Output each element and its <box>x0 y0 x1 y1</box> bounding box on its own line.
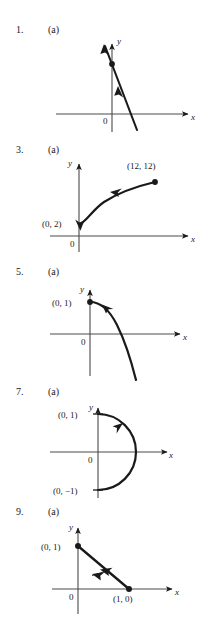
graph-9: x y 0 (0, 1) (1, 0) <box>0 502 213 620</box>
marked-point-dot <box>109 61 115 67</box>
problem-7: 7. (a) x y 0 (0, 1 <box>0 382 213 502</box>
marked-point-dot-start <box>75 543 81 549</box>
point-label-start: (0, 1) <box>41 542 61 552</box>
marked-point-dot <box>87 299 93 305</box>
direction-arrow <box>113 423 123 434</box>
y-axis-label: y <box>67 158 72 168</box>
point-label-end: (1, 0) <box>113 594 133 604</box>
worksheet-page: 1. (a) x y 0 <box>0 0 213 620</box>
point-label-top: (12, 12) <box>127 161 156 171</box>
graph-5: x y 0 (0, 1) <box>0 262 213 382</box>
y-axis-label: y <box>68 522 73 532</box>
x-axis-label: x <box>182 332 187 342</box>
point-label-bottom: (0, −1) <box>53 486 78 496</box>
graph-1-svg: x y 0 <box>0 20 213 140</box>
y-axis-label: y <box>88 402 93 412</box>
graph-9-svg: x y 0 (0, 1) (1, 0) <box>0 502 213 620</box>
graph-5-svg: x y 0 (0, 1) <box>0 262 213 382</box>
origin-label: 0 <box>88 455 93 465</box>
y-axis-label: y <box>79 284 84 294</box>
y-axis-label: y <box>116 36 121 46</box>
x-axis-label: x <box>168 450 173 460</box>
problem-9: 9. (a) x y 0 <box>0 502 213 620</box>
marked-point-dot-end <box>152 179 158 185</box>
point-label-top: (0, 1) <box>58 410 78 420</box>
curve-segment <box>78 546 129 589</box>
origin-label: 0 <box>69 592 74 602</box>
curve-parabola <box>90 302 136 380</box>
problem-5: 5. (a) x y 0 (0, 1) <box>0 262 213 382</box>
graph-3: x y 0 (12, 12) (0, 2) <box>0 140 213 260</box>
point-label-start: (0, 2) <box>42 219 62 229</box>
x-axis-label: x <box>190 234 195 244</box>
graph-3-svg: x y 0 (12, 12) (0, 2) <box>0 140 213 260</box>
origin-label: 0 <box>70 239 75 249</box>
graph-7-svg: x y 0 (0, 1) (0, −1) <box>0 382 213 502</box>
x-axis-label: x <box>190 112 195 122</box>
problem-1: 1. (a) x y 0 <box>0 20 213 140</box>
graph-7: x y 0 (0, 1) (0, −1) <box>0 382 213 502</box>
x-axis-label: x <box>174 587 179 597</box>
problem-3: 3. (a) x y 0 (12, <box>0 140 213 260</box>
curve-arc <box>79 182 155 224</box>
point-label-start: (0, 1) <box>52 298 72 308</box>
marked-point-dot-end <box>126 586 132 592</box>
graph-1: x y 0 <box>0 20 213 140</box>
origin-label: 0 <box>81 337 86 347</box>
curve-line <box>105 46 137 130</box>
origin-label: 0 <box>103 116 108 126</box>
